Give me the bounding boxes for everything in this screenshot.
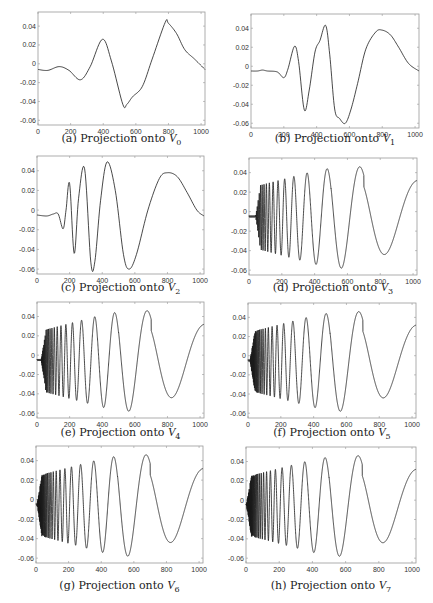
y-tick-label: -0.04 — [228, 535, 244, 542]
signal-line — [246, 456, 416, 557]
y-tick-label: 0 — [240, 497, 244, 504]
plot-h: 020040060080010000.040.020-0.02-0.04-0.0… — [0, 0, 433, 603]
y-tick-label: -0.02 — [228, 516, 244, 523]
y-tick-label: -0.06 — [228, 555, 244, 562]
caption-symbol: V — [379, 578, 386, 592]
y-tick-label: 0.02 — [230, 477, 244, 484]
x-tick-label: 200 — [273, 566, 285, 573]
y-tick-label: 0.04 — [230, 458, 244, 465]
caption-subscript: 7 — [386, 585, 391, 594]
x-tick-label: 0 — [244, 566, 248, 573]
caption-text: (h) Projection onto — [271, 579, 379, 592]
caption-h: (h) Projection onto V7 — [231, 578, 431, 594]
x-tick-label: 1000 — [404, 566, 420, 573]
x-tick-label: 600 — [340, 566, 352, 573]
x-tick-label: 400 — [307, 566, 319, 573]
x-tick-label: 800 — [373, 566, 385, 573]
